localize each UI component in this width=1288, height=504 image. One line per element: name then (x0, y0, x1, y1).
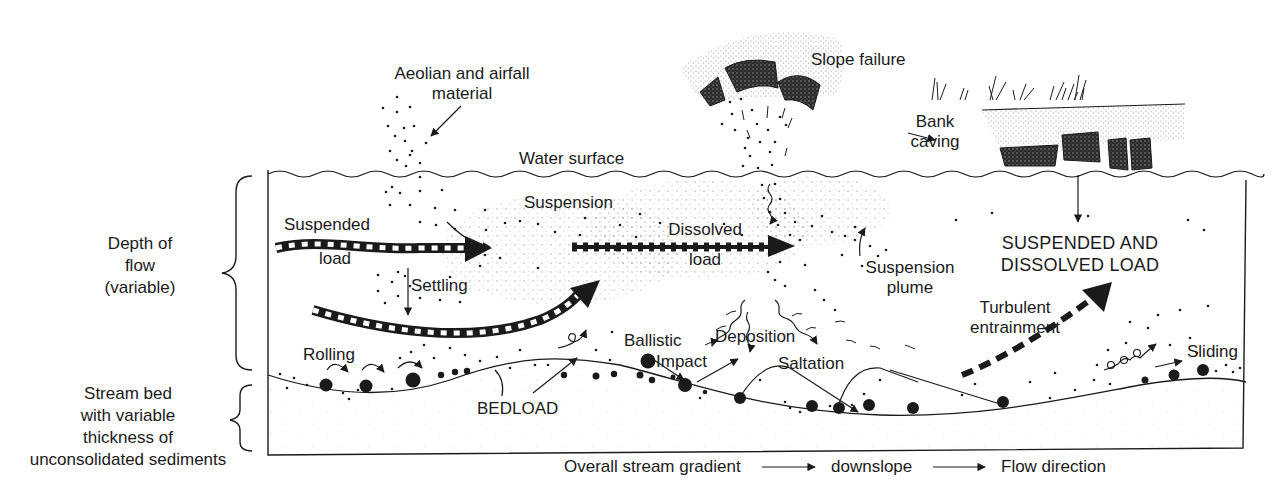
depth-of-flow-line2: flow (60, 255, 220, 277)
saltation-label: Saltation (778, 354, 844, 374)
suspension-label: Suspension (524, 193, 613, 213)
suspension-plume-label: Suspension plume (855, 258, 965, 298)
rolling-arrow-2 (362, 364, 384, 372)
turbulent-entrainment-label: Turbulent entrainment (955, 298, 1075, 338)
eddy-arrow-right (1104, 344, 1156, 370)
suspension-plume-line1: Suspension (855, 258, 965, 278)
stream-bed-line4: unconsolidated sediments (8, 449, 248, 471)
deposition-label: Deposition (715, 327, 795, 347)
sliding-arrow (1155, 361, 1182, 367)
bank-block-2 (1062, 132, 1100, 162)
aeolian-label-line1: Aeolian and airfall (372, 64, 552, 84)
depth-of-flow-line1: Depth of (60, 233, 220, 255)
stream-bed-line1: Stream bed (8, 383, 248, 405)
upper-right-dots (955, 212, 1206, 232)
suspended-dissolved-load-label: SUSPENDED AND DISSOLVED LOAD (990, 232, 1170, 276)
depth-of-flow-label: Depth of flow (variable) (60, 233, 220, 299)
grass-tufts (932, 75, 1086, 100)
bank-block-4 (1130, 138, 1152, 170)
aeolian-label-line2: material (372, 84, 552, 104)
bank-block-3 (1108, 138, 1128, 170)
turbulent-line1: Turbulent (955, 298, 1075, 318)
depth-of-flow-line3: (variable) (60, 277, 220, 299)
bank-caving-label-line2: caving (895, 132, 975, 152)
ballistic-label: Ballistic (624, 331, 682, 351)
water-surface-label: Water surface (519, 149, 624, 169)
eddy-arrow-left (558, 330, 586, 348)
dissolved-load-line1: Dissolved (645, 220, 765, 240)
slope-block-3 (778, 76, 820, 110)
sliding-label: Sliding (1187, 342, 1238, 362)
rolling-arrow-1 (327, 364, 348, 372)
suspended-dissolved-line2: DISSOLVED LOAD (990, 254, 1170, 276)
aeolian-label: Aeolian and airfall material (372, 64, 552, 104)
stream-bed-line3: thickness of (8, 427, 248, 449)
saltation-arrow-3 (890, 370, 1000, 404)
suspension-plume-line2: plume (855, 278, 965, 298)
aeolian-arrow (431, 106, 461, 136)
suspended-load-line2: load (270, 249, 400, 269)
dissolved-load-label: Dissolved load (645, 220, 765, 270)
bank-block-1 (1000, 145, 1058, 166)
bedload-label: BEDLOAD (477, 399, 558, 419)
saltation-arrow-2 (837, 368, 918, 410)
bank-caving-label-line1: Bank (895, 112, 975, 132)
settling-label: Settling (411, 276, 468, 296)
bank-caving-label: Bank caving (895, 112, 975, 152)
stream-bed-label: Stream bed with variable thickness of un… (8, 383, 248, 471)
water-surface-line (268, 171, 1264, 177)
legend-downslope: downslope (831, 457, 912, 477)
slope-failure-label: Slope failure (811, 50, 906, 70)
legend-flow-direction: Flow direction (1001, 457, 1106, 477)
legend-stream-gradient: Overall stream gradient (564, 457, 741, 477)
suspended-load-line1: Suspended (270, 215, 400, 235)
turbulent-line2: entrainment (955, 318, 1075, 338)
rolling-arrow-3 (398, 362, 422, 368)
dissolved-load-line2: load (645, 250, 765, 270)
impact-label: Impact (656, 352, 707, 372)
suspended-dissolved-line1: SUSPENDED AND (990, 232, 1170, 254)
suspended-load-label: Suspended load (270, 215, 400, 269)
stream-bed-line2: with variable (8, 405, 248, 427)
depth-of-flow-brace (222, 176, 252, 370)
rolling-label: Rolling (303, 345, 355, 365)
